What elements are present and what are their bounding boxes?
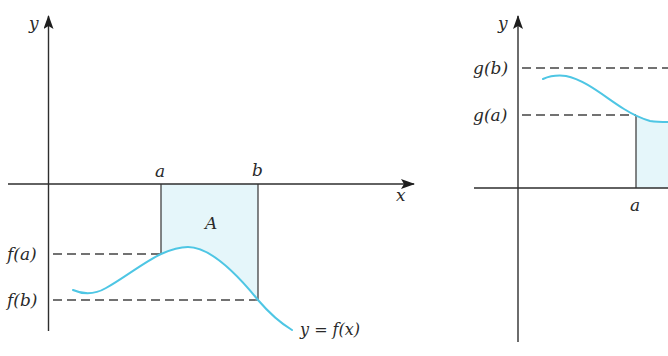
tick-label-gb: g(b) (473, 58, 508, 78)
curve-label-f: y = f(x) (299, 320, 360, 339)
left-panel: y x a b f(a) f(b) A y = f(x) (5, 13, 414, 339)
tick-label-b: b (252, 160, 263, 180)
left-x-axis-label: x (396, 185, 406, 205)
right-panel: y g(b) g(a) a (473, 13, 668, 342)
curve-f (73, 247, 292, 330)
area-region-g (636, 115, 668, 188)
right-y-axis-label: y (497, 13, 508, 33)
left-y-axis-label: y (28, 13, 39, 33)
curve-g (543, 76, 668, 122)
region-label-a: A (203, 213, 217, 233)
diagram-canvas: y x a b f(a) f(b) A y = f(x) y g(b) g(a)… (0, 0, 668, 356)
right-tick-label-a: a (630, 195, 640, 215)
tick-label-a: a (155, 161, 165, 181)
tick-label-fa: f(a) (5, 244, 37, 264)
tick-label-ga: g(a) (473, 105, 507, 125)
tick-label-fb: f(b) (5, 290, 37, 310)
